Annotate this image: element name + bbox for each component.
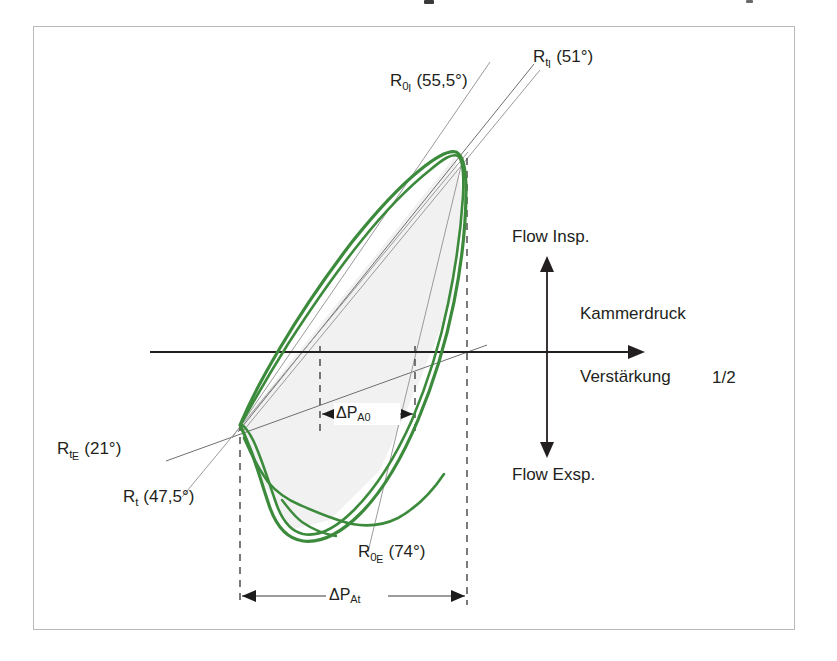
tangent-label-Rt-text: Rt (47,5°) xyxy=(123,487,194,506)
axis-label-flow-insp: Flow Insp. xyxy=(512,228,589,247)
tangent-label-RtE: RtE (21°) xyxy=(57,440,121,459)
tangent-label-RtE-text: RtE (21°) xyxy=(57,439,121,458)
dimension-arrowhead-dPAt-right xyxy=(451,590,465,602)
plot-canvas xyxy=(0,0,837,661)
tangent-label-R0E: R0E (74°) xyxy=(358,543,426,562)
dimension-arrowhead-dPAt-left xyxy=(242,590,256,602)
gain-value: 1/2 xyxy=(712,368,736,388)
shaded-region xyxy=(240,156,463,530)
tangent-label-RtI: RtI (51°) xyxy=(533,48,593,67)
tangent-label-Rt: Rt (47,5°) xyxy=(123,488,194,507)
horizontal-axis-arrowhead xyxy=(628,345,645,359)
vertical-axis-arrowhead-up xyxy=(540,256,554,272)
tangent-label-R0I: R0I (55,5°) xyxy=(390,72,468,91)
tangent-label-RtI-text: RtI (51°) xyxy=(533,47,593,66)
dimension-label-dPAt-text: ΔPAt xyxy=(329,586,361,603)
vertical-axis-arrowhead-down xyxy=(540,442,554,458)
axis-label-verstaerkung: Verstärkung xyxy=(580,368,671,387)
tangent-label-R0E-text: R0E (74°) xyxy=(358,542,426,561)
figure-root: R0I (55,5°) RtI (51°) RtE (21°) Rt (47,5… xyxy=(0,0,837,661)
dimension-label-dPA0-text: ΔPA0 xyxy=(336,404,371,421)
axis-label-flow-exsp: Flow Exsp. xyxy=(512,466,595,485)
dimension-arrowhead-dPA0-right xyxy=(401,409,413,419)
tangent-label-R0I-text: R0I (55,5°) xyxy=(390,71,468,90)
dimension-label-dPA0: ΔPA0 xyxy=(336,404,371,422)
dimension-label-dPAt: ΔPAt xyxy=(329,586,361,604)
axis-label-kammerdruck: Kammerdruck xyxy=(580,305,686,324)
